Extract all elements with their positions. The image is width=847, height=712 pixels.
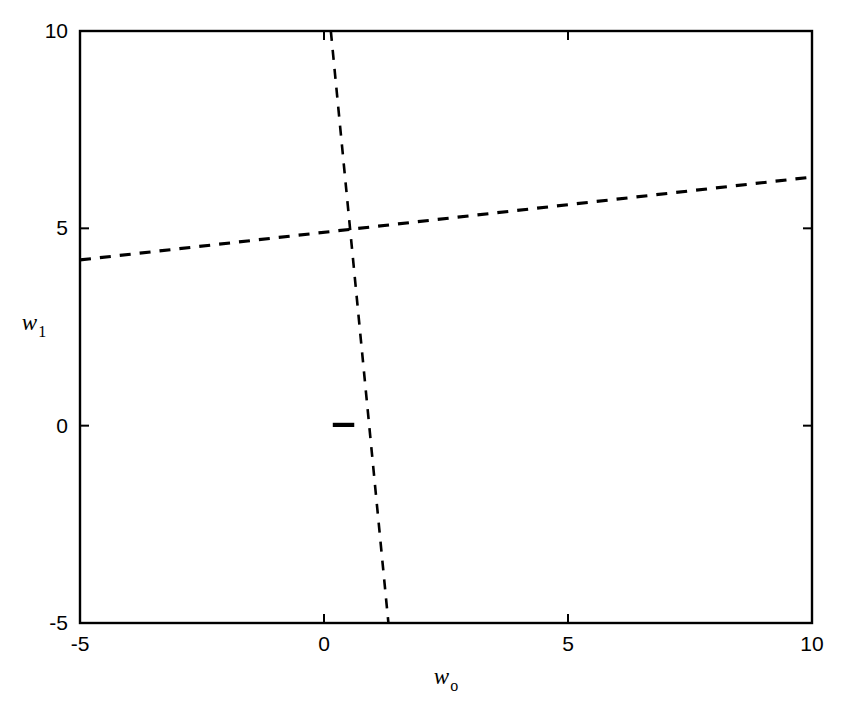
y-tick-label-0: -5 [49,611,68,634]
x-tick-label-2: 5 [562,632,574,655]
axis-title-subscript: 1 [38,323,46,340]
axis-ticks [80,31,812,623]
y-tick-label-1: 0 [56,414,68,437]
dashed-major-axis [80,177,812,260]
axis-title-main: w [434,664,450,689]
axis-title-main: w [22,310,38,335]
principal-axis-dashed-lines [80,31,812,623]
axis-tick-labels: -50510-50510 [45,19,824,655]
plot-canvas: -50510-50510 wo w1 [0,0,847,712]
dashed-minor-axis [331,31,389,623]
svg-text:w1: w1 [22,310,46,340]
x-axis-title: wo [434,664,458,694]
x-tick-label-3: 10 [800,632,823,655]
axes-frame [80,31,812,623]
svg-text:wo: wo [434,664,458,694]
axis-title-subscript: o [450,677,458,694]
plot-frame [80,31,812,623]
x-tick-label-1: 0 [318,632,330,655]
x-tick-label-0: -5 [71,632,90,655]
contour-plot-figure: -50510-50510 wo w1 [0,0,847,712]
y-tick-label-3: 10 [45,19,68,42]
y-axis-title: w1 [22,310,46,340]
y-tick-label-2: 5 [56,216,68,239]
